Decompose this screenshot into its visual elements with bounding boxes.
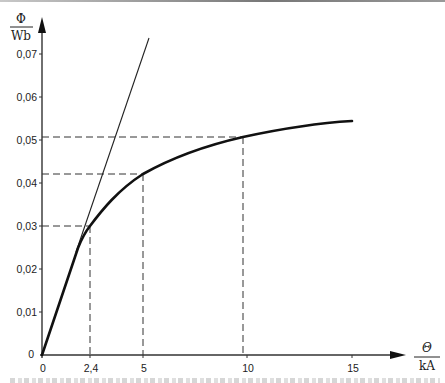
x-tick-label: 5 xyxy=(141,362,147,374)
y-axis-arrow-icon xyxy=(38,17,46,33)
y-tick-label: 0,04 xyxy=(17,177,38,189)
tangent-line xyxy=(76,38,149,252)
y-axis-title: Φ Wb xyxy=(10,12,33,43)
y-tick-label: 0,06 xyxy=(17,91,38,103)
magnetization-curve xyxy=(42,121,352,355)
x-axis-title-numerator: Θ xyxy=(422,341,432,355)
x-tick-label: 10 xyxy=(242,362,254,374)
y-ticks: 0 0,01 0,02 0,03 0,04 0,05 0,06 0,07 xyxy=(17,48,42,360)
x-tick-label: 0 xyxy=(40,362,46,374)
y-tick-label: 0,03 xyxy=(17,220,38,232)
y-tick-label: 0 xyxy=(28,348,34,360)
x-axis-arrow-icon xyxy=(390,351,406,359)
x-axis-title-denominator: kA xyxy=(419,359,435,373)
x-tick-label: 15 xyxy=(347,362,359,374)
figure-caption-cropped xyxy=(10,376,440,383)
x-axis xyxy=(40,351,406,359)
y-tick-label: 0,05 xyxy=(17,134,38,146)
y-tick-label: 0,01 xyxy=(17,306,38,318)
y-tick-label: 0,02 xyxy=(17,263,38,275)
y-tick-label: 0,07 xyxy=(17,48,38,60)
x-tick-label: 2,4 xyxy=(84,362,99,374)
x-ticks: 0 2,4 5 10 15 xyxy=(40,355,359,374)
magnetization-chart: 0 0,01 0,02 0,03 0,04 0,05 0,06 0,07 0 2… xyxy=(0,0,445,383)
x-axis-title: Θ kA xyxy=(414,341,440,373)
y-axis-title-denominator: Wb xyxy=(11,29,31,43)
dashed-projections xyxy=(42,137,243,355)
y-axis xyxy=(38,17,46,358)
y-axis-title-numerator: Φ xyxy=(16,12,26,26)
